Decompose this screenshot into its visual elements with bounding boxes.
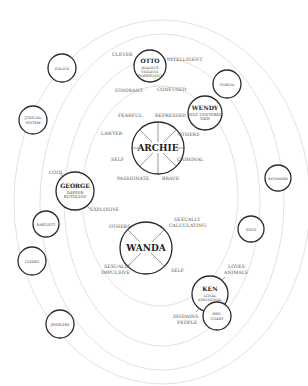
trait-lawyer: LAWYER: [101, 131, 123, 136]
trait-sexually-impulsive-1: SEXUALLY: [104, 264, 131, 269]
trait-loves-animals-1: LOVES: [228, 264, 245, 269]
trait-clever: CLEVER: [112, 52, 133, 57]
svg-text:SYSTEM: SYSTEM: [25, 121, 41, 125]
node-wendy[interactable]: WENDY SELF CENTERED VAIN: [188, 96, 223, 130]
node-police[interactable]: POLICE: [48, 54, 76, 82]
trait-loves-animals-2: ANIMALS: [223, 270, 248, 275]
ken-label: KEN: [202, 285, 218, 292]
relationship-diagram: ARCHIE FEARFUL REPRESSED OTHERS CRIMINAL…: [0, 0, 308, 386]
trait-disdains-people-1: DISDAINS: [173, 314, 198, 319]
wendy-label: WENDY: [191, 104, 219, 111]
node-archie[interactable]: ARCHIE: [132, 122, 184, 174]
archie-label: ARCHIE: [136, 143, 178, 153]
svg-text:COADY: COADY: [211, 317, 225, 321]
node-otto[interactable]: OTTO JEALOUS VIOLENT PERSISTENT: [134, 50, 166, 82]
node-judicial-system[interactable]: JUDICIAL SYSTEM: [19, 106, 47, 134]
node-george[interactable]: GEORGE DAPPER RUTHLESS: [56, 172, 94, 210]
trait-disdains-people-2: PEOPLE: [177, 320, 197, 325]
node-dogs[interactable]: DOGS: [238, 216, 264, 242]
svg-text:VAIN: VAIN: [199, 116, 211, 121]
svg-text:LOYAL: LOYAL: [204, 294, 217, 298]
trait-ignorant: IGNORANT: [115, 88, 144, 93]
svg-text:MRS.: MRS.: [212, 312, 221, 316]
trait-fearful: FEARFUL: [118, 113, 142, 118]
trait-self-wanda: SELF: [171, 268, 184, 273]
svg-text:DOGS: DOGS: [246, 228, 257, 232]
svg-text:BYSTANDER: BYSTANDER: [268, 177, 288, 181]
trait-self-archie: SELF: [111, 157, 124, 162]
node-portia[interactable]: PORTIA: [213, 70, 241, 98]
otto-label: OTTO: [140, 57, 159, 64]
svg-text:BARTLETT: BARTLETT: [37, 223, 56, 227]
trait-others-wanda: OTHERS: [109, 224, 130, 229]
trait-repressed: REPRESSED: [155, 113, 186, 118]
wanda-label: WANDA: [125, 243, 167, 253]
trait-sexually-calculating-2: CALCULATING: [169, 223, 206, 228]
node-clerks[interactable]: CLERKS: [18, 247, 46, 275]
trait-cool: COOL: [49, 170, 64, 175]
svg-text:EMOTIONAL: EMOTIONAL: [198, 298, 223, 302]
trait-sexually-impulsive-2: IMPULSIVE: [101, 270, 130, 275]
node-bystander[interactable]: BYSTANDER: [265, 165, 291, 191]
node-bartlett[interactable]: BARTLETT: [33, 211, 59, 237]
trait-criminal: CRIMINAL: [177, 157, 204, 162]
svg-text:JEWELERS: JEWELERS: [50, 323, 71, 327]
trait-brave: BRAVE: [162, 176, 179, 181]
node-jewelers[interactable]: JEWELERS: [46, 310, 74, 338]
george-label: GEORGE: [60, 182, 90, 189]
node-mrs-coady-final[interactable]: MRS. COADY: [203, 302, 231, 330]
trait-explosive: EXPLOSIVE: [90, 207, 119, 212]
trait-sexually-calculating-1: SEXUALLY: [174, 217, 201, 222]
svg-text:CLERKS: CLERKS: [25, 260, 40, 264]
trait-confused: CONFUSED: [157, 87, 187, 92]
third-orbit: [64, 58, 260, 346]
svg-text:POLICE: POLICE: [55, 67, 70, 71]
svg-text:PORTIA: PORTIA: [220, 83, 235, 87]
trait-others-archie: OTHERS: [178, 132, 199, 137]
svg-text:RUTHLESS: RUTHLESS: [64, 194, 87, 199]
svg-text:PERSISTENT: PERSISTENT: [138, 74, 163, 78]
trait-intelligent: INTELLIGENT: [167, 57, 203, 62]
svg-text:JUDICIAL: JUDICIAL: [24, 116, 43, 120]
trait-passionate: PASSIONATE: [117, 176, 149, 181]
